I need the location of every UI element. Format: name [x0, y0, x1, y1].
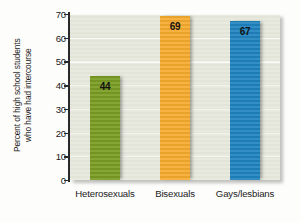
y-axis-tick-label: 70: [44, 9, 66, 20]
y-axis-tick-label: 20: [44, 127, 66, 138]
y-axis-tick-mark: [64, 61, 69, 62]
y-axis-tick-mark: [64, 14, 69, 15]
y-axis-title-line-2: who have had intercourse: [23, 38, 34, 152]
y-axis-tick-label: 50: [44, 56, 66, 67]
y-axis-tick-mark: [64, 156, 69, 157]
y-axis-tick-mark: [64, 109, 69, 110]
y-axis-tick-label: 0: [44, 175, 66, 186]
bar-fill: [230, 21, 260, 180]
y-axis-title-line-1: Percent of high school students: [12, 38, 23, 152]
gridline: [70, 14, 280, 15]
bar-value-label: 69: [160, 21, 190, 32]
x-axis-category-labels: HeterosexualsBisexualsGays/lesbians: [70, 188, 282, 206]
y-axis-tick-mark: [64, 38, 69, 39]
bar[interactable]: 67: [230, 21, 260, 180]
y-axis-title: Percent of high school students who have…: [0, 0, 46, 190]
y-axis-tick-mark: [64, 133, 69, 134]
x-axis-category-label: Bisexuals: [155, 188, 195, 199]
bar[interactable]: 44: [90, 76, 120, 180]
y-axis-tick-mark: [64, 85, 69, 86]
y-axis-tick-label: 30: [44, 103, 66, 114]
bar-value-label: 44: [90, 81, 120, 92]
y-axis-tick-mark: [64, 180, 69, 181]
bar-value-label: 67: [230, 26, 260, 37]
y-axis-tick-labels: 706050403020100: [44, 8, 66, 178]
x-axis-category-label: Gays/lesbians: [216, 188, 274, 199]
y-axis-tick-label: 60: [44, 32, 66, 43]
bar-fill: [160, 16, 190, 180]
bar[interactable]: 69: [160, 16, 190, 180]
plot-area: 446967: [70, 14, 280, 180]
x-axis-category-label: Heterosexuals: [75, 188, 134, 199]
y-axis-tick-label: 10: [44, 151, 66, 162]
y-axis-tick-label: 40: [44, 80, 66, 91]
bar-chart-figure: Percent of high school students who have…: [0, 0, 300, 222]
